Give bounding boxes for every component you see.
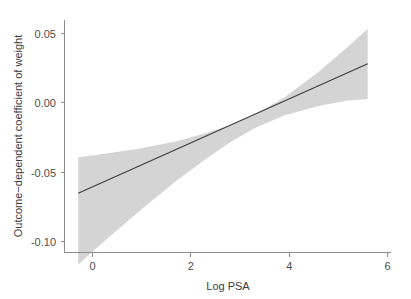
- chart-figure: 0.05 0.00 -0.05 -0.10 0 2 4 6 Log PSA Ou…: [0, 0, 411, 299]
- y-tick-label: 0.05: [35, 28, 56, 40]
- y-tick-label: 0.00: [35, 97, 56, 109]
- x-tick-label: 6: [384, 260, 390, 272]
- line-chart-with-confidence-band: 0.05 0.00 -0.05 -0.10 0 2 4 6 Log PSA Ou…: [0, 0, 411, 299]
- x-tick-label: 4: [286, 260, 292, 272]
- x-axis-title: Log PSA: [206, 280, 250, 292]
- x-tick-label: 0: [89, 260, 95, 272]
- y-tick-label: -0.05: [31, 167, 56, 179]
- y-tick-label: -0.10: [31, 236, 56, 248]
- x-tick-label: 2: [188, 260, 194, 272]
- y-axis-title: Outcome−dependent coefficient of weight: [12, 35, 24, 238]
